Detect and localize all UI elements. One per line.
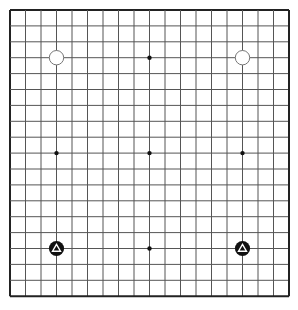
board-intersection[interactable] bbox=[80, 18, 96, 34]
board-intersection[interactable] bbox=[80, 209, 96, 225]
board-intersection[interactable] bbox=[157, 161, 173, 177]
board-intersection[interactable] bbox=[95, 34, 111, 50]
board-intersection[interactable] bbox=[157, 34, 173, 50]
board-intersection[interactable] bbox=[173, 145, 189, 161]
board-intersection[interactable] bbox=[64, 113, 80, 129]
board-intersection[interactable] bbox=[250, 272, 266, 288]
board-intersection[interactable] bbox=[204, 288, 220, 304]
board-intersection[interactable] bbox=[281, 225, 297, 241]
board-intersection[interactable] bbox=[2, 50, 18, 66]
board-intersection[interactable] bbox=[142, 82, 158, 98]
board-intersection[interactable] bbox=[18, 225, 34, 241]
board-intersection[interactable] bbox=[266, 193, 282, 209]
board-intersection[interactable] bbox=[157, 225, 173, 241]
board-intersection[interactable] bbox=[142, 161, 158, 177]
board-intersection[interactable] bbox=[95, 66, 111, 82]
board-intersection[interactable] bbox=[142, 2, 158, 18]
board-intersection[interactable] bbox=[80, 66, 96, 82]
board-intersection[interactable] bbox=[266, 129, 282, 145]
board-intersection[interactable] bbox=[95, 145, 111, 161]
board-intersection[interactable] bbox=[266, 161, 282, 177]
board-intersection[interactable] bbox=[95, 193, 111, 209]
board-intersection[interactable] bbox=[173, 177, 189, 193]
board-intersection[interactable] bbox=[49, 113, 65, 129]
board-intersection[interactable] bbox=[111, 129, 127, 145]
board-intersection[interactable] bbox=[281, 193, 297, 209]
board-intersection[interactable] bbox=[250, 288, 266, 304]
board-intersection[interactable] bbox=[126, 272, 142, 288]
board-intersection[interactable] bbox=[173, 256, 189, 272]
board-intersection[interactable] bbox=[95, 209, 111, 225]
board-intersection[interactable] bbox=[281, 113, 297, 129]
board-intersection[interactable] bbox=[126, 288, 142, 304]
board-intersection[interactable] bbox=[80, 225, 96, 241]
board-intersection[interactable] bbox=[2, 288, 18, 304]
board-intersection[interactable] bbox=[18, 113, 34, 129]
board-intersection[interactable] bbox=[2, 256, 18, 272]
board-intersection[interactable] bbox=[64, 161, 80, 177]
board-intersection[interactable] bbox=[111, 82, 127, 98]
board-intersection[interactable] bbox=[126, 50, 142, 66]
board-intersection[interactable] bbox=[250, 66, 266, 82]
board-intersection[interactable] bbox=[49, 288, 65, 304]
board-intersection[interactable] bbox=[33, 2, 49, 18]
board-intersection[interactable] bbox=[33, 66, 49, 82]
board-intersection[interactable] bbox=[33, 129, 49, 145]
board-intersection[interactable] bbox=[281, 145, 297, 161]
board-intersection[interactable] bbox=[142, 288, 158, 304]
board-intersection[interactable] bbox=[235, 161, 251, 177]
go-board[interactable] bbox=[0, 0, 298, 310]
board-intersection[interactable] bbox=[18, 241, 34, 257]
board-intersection[interactable] bbox=[64, 288, 80, 304]
board-intersection[interactable] bbox=[142, 18, 158, 34]
board-intersection[interactable] bbox=[33, 113, 49, 129]
board-intersection[interactable] bbox=[173, 50, 189, 66]
board-intersection[interactable] bbox=[250, 129, 266, 145]
board-intersection[interactable] bbox=[33, 34, 49, 50]
board-intersection[interactable] bbox=[64, 50, 80, 66]
board-intersection[interactable] bbox=[2, 225, 18, 241]
board-intersection[interactable] bbox=[33, 18, 49, 34]
board-intersection[interactable] bbox=[281, 272, 297, 288]
board-intersection[interactable] bbox=[64, 272, 80, 288]
board-intersection[interactable] bbox=[157, 288, 173, 304]
board-intersection[interactable] bbox=[33, 241, 49, 257]
board-intersection[interactable] bbox=[188, 18, 204, 34]
board-intersection[interactable] bbox=[204, 66, 220, 82]
board-intersection[interactable] bbox=[64, 129, 80, 145]
board-intersection[interactable] bbox=[204, 272, 220, 288]
board-intersection[interactable] bbox=[188, 82, 204, 98]
board-intersection[interactable] bbox=[64, 209, 80, 225]
board-intersection[interactable] bbox=[111, 288, 127, 304]
board-intersection[interactable] bbox=[266, 50, 282, 66]
board-intersection[interactable] bbox=[111, 113, 127, 129]
board-intersection[interactable] bbox=[18, 272, 34, 288]
board-intersection[interactable] bbox=[235, 241, 251, 257]
board-intersection[interactable] bbox=[18, 18, 34, 34]
board-intersection[interactable] bbox=[219, 66, 235, 82]
board-intersection[interactable] bbox=[235, 97, 251, 113]
board-intersection[interactable] bbox=[235, 177, 251, 193]
board-intersection[interactable] bbox=[235, 288, 251, 304]
board-intersection[interactable] bbox=[266, 241, 282, 257]
board-intersection[interactable] bbox=[49, 66, 65, 82]
board-intersection[interactable] bbox=[250, 256, 266, 272]
board-intersection[interactable] bbox=[219, 97, 235, 113]
board-intersection[interactable] bbox=[173, 18, 189, 34]
board-intersection[interactable] bbox=[250, 193, 266, 209]
board-intersection[interactable] bbox=[157, 97, 173, 113]
board-intersection[interactable] bbox=[173, 34, 189, 50]
board-intersection[interactable] bbox=[266, 97, 282, 113]
board-intersection[interactable] bbox=[142, 50, 158, 66]
board-intersection[interactable] bbox=[126, 97, 142, 113]
board-intersection[interactable] bbox=[80, 193, 96, 209]
board-intersection[interactable] bbox=[111, 193, 127, 209]
board-intersection[interactable] bbox=[157, 256, 173, 272]
board-intersection[interactable] bbox=[281, 66, 297, 82]
board-intersection[interactable] bbox=[219, 50, 235, 66]
board-intersection[interactable] bbox=[142, 66, 158, 82]
board-intersection[interactable] bbox=[95, 2, 111, 18]
board-intersection[interactable] bbox=[266, 145, 282, 161]
board-intersection[interactable] bbox=[126, 209, 142, 225]
board-intersection[interactable] bbox=[235, 145, 251, 161]
